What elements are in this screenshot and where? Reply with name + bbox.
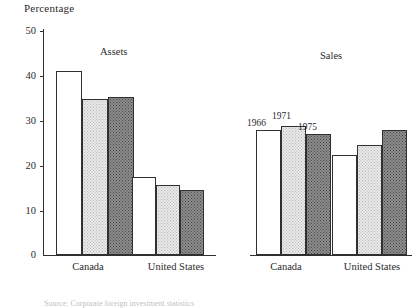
bar-assets-canada-1966 bbox=[56, 71, 82, 255]
y-tick-label-40: 40 bbox=[14, 70, 36, 81]
bar-sales-canada-1966 bbox=[256, 130, 281, 255]
group-label-sales-canada: Canada bbox=[256, 261, 316, 272]
assets-bars bbox=[44, 31, 214, 255]
sales-bars bbox=[250, 31, 410, 255]
bar-assets-united-states-1971 bbox=[156, 185, 180, 255]
bar-assets-canada-1975 bbox=[108, 97, 134, 255]
assets-plot-area bbox=[44, 31, 214, 255]
series-label-1975: 1975 bbox=[298, 122, 317, 132]
bar-chart-figure: Percentage Assets Sales 50 40 30 20 10 0… bbox=[0, 0, 413, 308]
bar-assets-united-states-1975 bbox=[180, 190, 204, 255]
y-tick-label-10: 10 bbox=[14, 205, 36, 216]
group-label-assets-us: United States bbox=[134, 261, 218, 272]
source-caption: Source: Corporate foreign investment sta… bbox=[44, 299, 194, 308]
y-tick-label-30: 30 bbox=[14, 115, 36, 126]
bar-assets-united-states-1966 bbox=[132, 177, 156, 255]
bar-sales-united-states-1971 bbox=[357, 145, 382, 255]
bar-sales-canada-1975 bbox=[306, 134, 331, 255]
sales-plot-area bbox=[250, 31, 410, 255]
y-axis-title: Percentage bbox=[24, 2, 74, 14]
y-tick-label-20: 20 bbox=[14, 160, 36, 171]
series-label-1971: 1971 bbox=[272, 111, 291, 121]
group-label-assets-canada: Canada bbox=[58, 261, 118, 272]
y-tick-label-0: 0 bbox=[14, 249, 36, 260]
bar-assets-canada-1971 bbox=[82, 99, 108, 255]
bar-sales-united-states-1966 bbox=[332, 155, 357, 255]
series-label-1966: 1966 bbox=[247, 118, 266, 128]
assets-baseline bbox=[44, 255, 216, 256]
group-label-sales-us: United States bbox=[330, 261, 413, 272]
y-tick-label-50: 50 bbox=[14, 25, 36, 36]
bar-sales-canada-1971 bbox=[281, 126, 306, 255]
sales-baseline bbox=[250, 255, 412, 256]
bar-sales-united-states-1975 bbox=[382, 130, 407, 255]
